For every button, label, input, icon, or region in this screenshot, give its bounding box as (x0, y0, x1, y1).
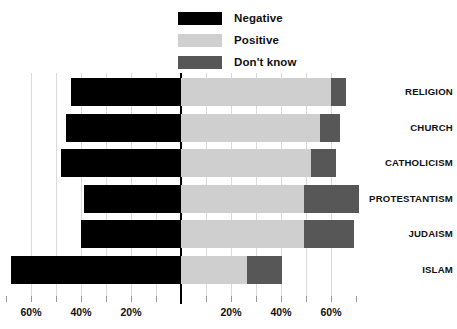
plot-area: RELIGIONCHURCHCATHOLICISMPROTESTANTISMJU… (0, 70, 457, 300)
axis-tick-zero (180, 296, 182, 304)
axis-tick-label: 40% (270, 306, 291, 318)
axis-tick-minor (356, 296, 357, 302)
axis-tick-label: 60% (320, 306, 341, 318)
bar-segment-dont-know (247, 256, 282, 284)
bar-segment-positive (181, 220, 304, 248)
bar-segment-negative (84, 185, 182, 213)
bar-segment-positive (181, 256, 247, 284)
bar-row (0, 185, 457, 213)
bar-segment-negative (66, 114, 181, 142)
x-axis: 60%40%20%20%40%60% (0, 296, 457, 329)
bar-segment-positive (181, 149, 311, 177)
bar-row (0, 114, 457, 142)
bar-segment-negative (81, 220, 181, 248)
axis-tick-minor (206, 296, 207, 302)
axis-tick (81, 296, 82, 302)
legend-label-dont-know: Don't know (234, 56, 297, 68)
axis-tick (331, 296, 332, 302)
legend-label-negative: Negative (234, 12, 283, 24)
chart-legend: Negative Positive Don't know (178, 8, 348, 74)
bar-segment-dont-know (304, 220, 354, 248)
axis-tick-minor (106, 296, 107, 302)
bar-segment-dont-know (311, 149, 336, 177)
bar-segment-dont-know (320, 114, 340, 142)
bar-row (0, 149, 457, 177)
bar-segment-positive (181, 185, 304, 213)
bar-segment-negative (11, 256, 181, 284)
axis-tick (31, 296, 32, 302)
bar-segment-negative (71, 78, 181, 106)
bar-segment-positive (181, 114, 320, 142)
bar-row (0, 256, 457, 284)
axis-tick-label: 20% (120, 306, 141, 318)
bar-row (0, 220, 457, 248)
legend-item-negative: Negative (178, 8, 348, 28)
bar-row (0, 78, 457, 106)
legend-swatch-dont-know (178, 56, 222, 69)
legend-label-positive: Positive (234, 34, 279, 46)
bar-segment-dont-know (331, 78, 346, 106)
axis-tick-label: 40% (70, 306, 91, 318)
axis-tick-minor (56, 296, 57, 302)
legend-item-positive: Positive (178, 30, 348, 50)
axis-tick (231, 296, 232, 302)
axis-tick-label: 60% (20, 306, 41, 318)
axis-tick-minor (6, 296, 7, 302)
bar-segment-dont-know (304, 185, 359, 213)
legend-item-dont-know: Don't know (178, 52, 348, 72)
legend-swatch-positive (178, 34, 222, 47)
axis-tick (131, 296, 132, 302)
bar-segment-negative (61, 149, 181, 177)
axis-tick-label: 20% (220, 306, 241, 318)
axis-tick-minor (256, 296, 257, 302)
axis-tick-minor (156, 296, 157, 302)
axis-tick (281, 296, 282, 302)
bar-segment-positive (181, 78, 331, 106)
chart-container: Negative Positive Don't know RELIGIONCHU… (0, 0, 457, 329)
axis-tick-minor (306, 296, 307, 302)
legend-swatch-negative (178, 12, 222, 25)
